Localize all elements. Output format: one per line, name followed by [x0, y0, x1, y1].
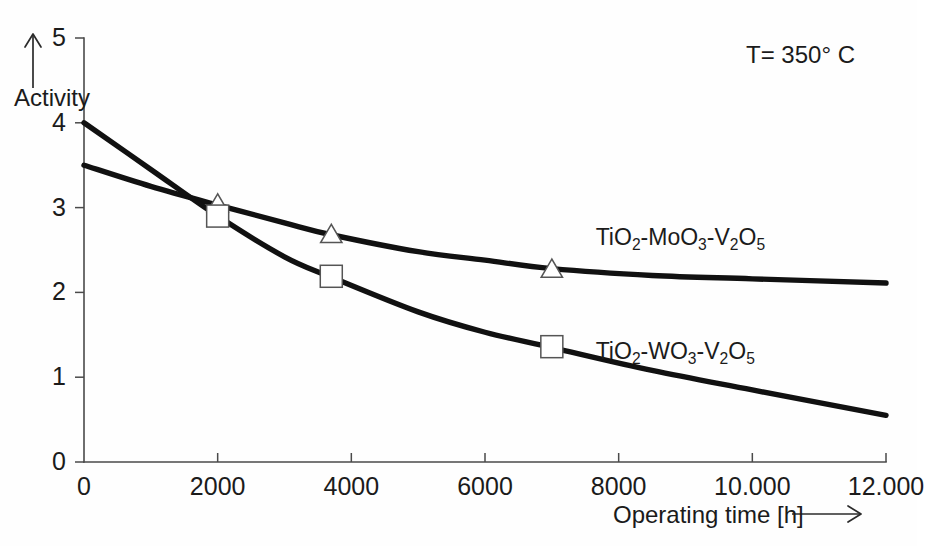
x-tick-label: 2000	[158, 474, 278, 499]
x-tick-label: 0	[24, 474, 144, 499]
y-tick-label: 5	[22, 25, 66, 50]
marker-square	[207, 205, 229, 227]
y-axis-title: Activity	[14, 86, 90, 110]
series-curve-tio2-wo3-v2o5	[84, 123, 886, 416]
y-tick-label: 4	[22, 110, 66, 135]
x-axis-ticks	[218, 453, 886, 462]
annotation-temperature: T= 350° C	[746, 43, 855, 67]
marker-square	[320, 265, 342, 287]
y-tick-label: 3	[22, 195, 66, 220]
y-tick-label: 1	[22, 364, 66, 389]
x-tick-label: 10.000	[692, 474, 812, 499]
x-tick-label: 12.000	[826, 474, 928, 499]
series-label-tio2-moo3-v2o5: TiO2-MoO3-V2O5	[596, 226, 765, 249]
x-tick-label: 6000	[425, 474, 545, 499]
series-curve-tio2-moo3-v2o5	[84, 165, 886, 283]
marker-square	[541, 336, 563, 358]
x-tick-label: 8000	[559, 474, 679, 499]
axes-group	[84, 38, 886, 462]
y-tick-label: 0	[22, 449, 66, 474]
series-label-tio2-wo3-v2o5: TiO2-WO3-V2O5	[596, 340, 755, 363]
series-curves	[84, 123, 886, 416]
x-axis-title: Operating time [h]	[613, 503, 804, 527]
y-tick-label: 2	[22, 279, 66, 304]
x-tick-label: 4000	[291, 474, 411, 499]
